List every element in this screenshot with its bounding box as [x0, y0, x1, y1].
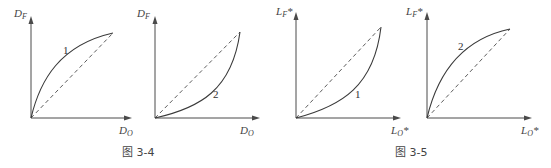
y-axis-arrow-icon [294, 12, 299, 20]
x-axis-arrow-icon [124, 116, 132, 121]
y-axis-label: DF [14, 7, 27, 21]
curve-label: 1 [63, 44, 69, 56]
y-axis-label: LF* [276, 5, 293, 19]
figure-caption: 图 3-5 [395, 143, 427, 159]
curve-2 [427, 29, 510, 118]
x-axis-arrow-icon [524, 116, 532, 121]
y-axis-arrow-icon [153, 16, 158, 24]
diagonal-reference-line [296, 27, 381, 118]
diagram-canvas [0, 0, 551, 168]
curve-label: 2 [458, 40, 464, 52]
diagonal-reference-line [155, 32, 240, 118]
figure-caption: 图 3-4 [122, 143, 154, 159]
x-axis-label: DO [240, 124, 254, 138]
y-axis-label: DF [137, 7, 150, 21]
y-axis-arrow-icon [425, 12, 430, 20]
x-axis-arrow-icon [393, 116, 401, 121]
x-axis-label: LO* [391, 124, 408, 138]
curve-label: 1 [355, 88, 361, 100]
y-axis-arrow-icon [29, 16, 34, 24]
panel-3-5-curve-2 [425, 12, 533, 121]
y-axis-label: LF* [406, 5, 423, 19]
panel-3-4-curve-1 [29, 16, 133, 121]
x-axis-label: DO [119, 124, 133, 138]
curve-2 [155, 32, 240, 118]
panel-3-5-curve-1 [294, 12, 402, 121]
curve-label: 2 [213, 88, 219, 100]
panel-3-4-curve-2 [153, 16, 261, 121]
x-axis-label: LO* [521, 124, 538, 138]
diagonal-reference-line [427, 29, 510, 118]
x-axis-arrow-icon [252, 116, 260, 121]
diagonal-reference-line [31, 33, 113, 118]
